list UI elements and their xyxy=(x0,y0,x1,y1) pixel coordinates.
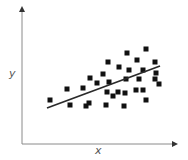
data-point xyxy=(144,47,149,52)
y-axis-label: y xyxy=(9,68,16,79)
data-point xyxy=(65,87,70,92)
data-point xyxy=(104,103,109,108)
data-point xyxy=(87,101,92,106)
data-point xyxy=(144,98,149,103)
data-point xyxy=(135,58,140,63)
data-point xyxy=(157,82,162,87)
data-point xyxy=(106,60,111,65)
data-point xyxy=(154,71,159,76)
data-point xyxy=(153,77,158,82)
data-point xyxy=(81,86,86,91)
data-point xyxy=(125,51,130,56)
data-point xyxy=(68,103,73,108)
data-point xyxy=(111,94,116,99)
data-point xyxy=(141,88,146,93)
data-point xyxy=(134,88,139,93)
data-point xyxy=(153,60,158,65)
data-point xyxy=(117,65,122,70)
data-point xyxy=(88,76,93,81)
data-point xyxy=(48,98,53,103)
data-point xyxy=(122,104,127,109)
data-point xyxy=(123,91,128,96)
axes xyxy=(22,9,175,144)
data-point xyxy=(95,81,100,86)
data-point xyxy=(137,77,142,82)
data-points xyxy=(48,47,162,109)
scatter-plot xyxy=(0,0,188,160)
x-axis-label: x xyxy=(95,145,102,156)
data-point xyxy=(101,72,106,77)
data-point xyxy=(105,90,110,95)
data-point xyxy=(127,68,132,73)
data-point xyxy=(116,90,121,95)
